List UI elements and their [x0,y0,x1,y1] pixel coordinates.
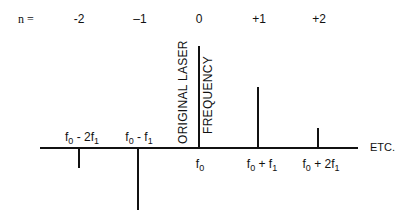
freq-label-plus-2: f0 + 2f1 [302,157,339,173]
freq-label-plus-1: f0 + f1 [247,157,277,173]
order-label-minus-1: –1 [133,12,146,26]
freq-label-minus-1: f0 - f1 [125,130,152,146]
freq-label-0: f0 [196,157,204,173]
order-label-0: 0 [196,12,203,26]
spectral-line-0 [198,46,200,148]
original-laser-label: ORIGINAL LASER [176,40,190,144]
freq-label-minus-2: f0 - 2f1 [65,130,99,146]
etc-label: ETC. [370,141,395,153]
order-label-plus-1: +1 [252,12,266,26]
spectral-line-minus-2 [78,148,80,168]
spectral-line-plus-2 [317,128,319,148]
spectral-line-minus-1 [137,148,139,210]
spectral-line-plus-1 [257,87,259,148]
order-label-plus-2: +2 [312,12,326,26]
order-label-minus-2: -2 [74,12,85,26]
n-equals-label: n = [18,12,34,27]
frequency-label: FREQUENCY [201,56,215,134]
